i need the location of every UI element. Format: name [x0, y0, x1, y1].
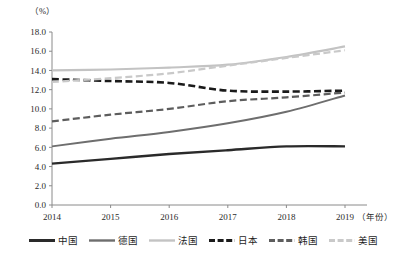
series-line-1	[52, 95, 345, 146]
legend-label-2: 法国	[178, 233, 198, 247]
axes-layer	[49, 32, 367, 208]
x-axis-title: （年份）	[357, 212, 393, 222]
legend-label-0: 中国	[58, 233, 78, 247]
legend-swatch-0	[29, 236, 55, 245]
legend-item-5[interactable]: 美国	[329, 233, 378, 247]
y-tick-label: 14.0	[30, 66, 46, 76]
y-tick-label: 18.0	[30, 27, 46, 37]
y-tick-label: 0.0	[35, 200, 47, 210]
x-tick-label: 2014	[43, 212, 62, 222]
series-layer	[52, 46, 345, 163]
legend-swatch-5	[329, 236, 355, 245]
series-line-3	[52, 79, 345, 92]
y-tick-label: 12.0	[30, 85, 46, 95]
legend-item-3[interactable]: 日本	[209, 233, 258, 247]
legend-label-4: 韩国	[298, 233, 318, 247]
x-tick-label: 2017	[219, 212, 238, 222]
legend-label-3: 日本	[238, 233, 258, 247]
y-tick-label: 8.0	[35, 123, 47, 133]
y-tick-label: 10.0	[30, 104, 46, 114]
plot-area: 0.02.04.06.08.010.012.014.016.018.020142…	[0, 0, 407, 233]
legend-item-4[interactable]: 韩国	[269, 233, 318, 247]
y-tick-label: 16.0	[30, 46, 46, 56]
series-line-0	[52, 146, 345, 164]
chart-legend: 中国德国法国日本韩国美国	[0, 233, 407, 247]
legend-label-5: 美国	[358, 233, 378, 247]
legend-swatch-3	[209, 236, 235, 245]
legend-swatch-4	[269, 236, 295, 245]
legend-swatch-2	[149, 236, 175, 245]
series-line-2	[52, 46, 345, 70]
legend-label-1: 德国	[118, 233, 138, 247]
line-chart: （%） 0.02.04.06.08.010.012.014.016.018.02…	[0, 0, 407, 259]
legend-item-0[interactable]: 中国	[29, 233, 78, 247]
x-tick-label: 2018	[277, 212, 296, 222]
x-tick-label: 2019	[336, 212, 355, 222]
legend-swatch-1	[89, 236, 115, 245]
x-tick-label: 2016	[160, 212, 179, 222]
legend-item-2[interactable]: 法国	[149, 233, 198, 247]
y-tick-label: 6.0	[35, 143, 47, 153]
y-tick-label: 4.0	[35, 162, 47, 172]
y-tick-label: 2.0	[35, 181, 47, 191]
legend-item-1[interactable]: 德国	[89, 233, 138, 247]
x-tick-label: 2015	[102, 212, 121, 222]
tick-labels-layer: 0.02.04.06.08.010.012.014.016.018.020142…	[30, 27, 393, 222]
